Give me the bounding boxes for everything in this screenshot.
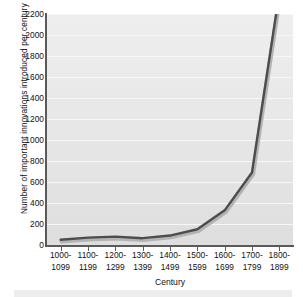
y-tick-label: 400 [20,199,44,207]
x-tick-label: 1800-1899 [259,250,299,273]
y-tick-label: 1200 [20,115,44,123]
series-line-shadow [62,14,281,241]
y-tick-label: 200 [20,220,44,228]
y-tick-label: 1400 [20,94,44,102]
y-axis-spine [45,13,47,246]
y-tick-label: 1600 [20,73,44,81]
y-tick-label: 0 [20,241,44,249]
y-tick-label: 2000 [20,31,44,39]
chart-figure: Number of important innovations introduc… [0,0,303,297]
y-tick-label: 600 [20,178,44,186]
y-tick-label: 1800 [20,52,44,60]
x-tick-label-line2: 1899 [259,262,299,274]
x-axis-tick-labels: 1000-10991100-11991200-12991300-13991400… [47,250,293,278]
series-line-main [61,14,280,240]
y-tick-label: 800 [20,157,44,165]
plot-area [47,14,293,245]
x-tick-label-line1: 1800- [259,250,299,262]
y-tick-label: 2200 [20,10,44,18]
y-tick-label: 1000 [20,136,44,144]
series-line-innovations [47,14,293,245]
x-axis-title: Century [47,277,293,287]
footer-strip [14,290,292,297]
